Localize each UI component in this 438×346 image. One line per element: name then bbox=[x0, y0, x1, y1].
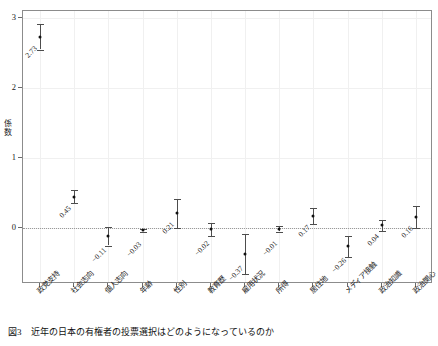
error-bar-cap-upper bbox=[413, 206, 420, 207]
gridline-horizontal bbox=[23, 18, 431, 19]
y-tick-mark bbox=[18, 87, 22, 88]
data-point-value-label: 0.21 bbox=[161, 221, 176, 236]
data-point bbox=[175, 212, 178, 215]
data-point-value-label: 0.04 bbox=[366, 233, 381, 248]
error-bar-cap-upper bbox=[208, 223, 215, 224]
gridline-vertical bbox=[177, 11, 178, 282]
data-point bbox=[209, 228, 212, 231]
y-tick-label: 2 bbox=[12, 82, 16, 92]
data-point-value-label: 0.45 bbox=[58, 204, 73, 219]
error-bar-cap-upper bbox=[37, 24, 44, 25]
gridline-vertical bbox=[74, 11, 75, 282]
zero-line bbox=[23, 228, 431, 229]
caption-number: 図3 bbox=[8, 327, 22, 337]
data-point bbox=[414, 215, 417, 218]
error-bar-cap-lower bbox=[140, 232, 147, 233]
error-bar-cap-lower bbox=[208, 236, 215, 237]
error-bar-cap-lower bbox=[242, 274, 249, 275]
data-point bbox=[39, 35, 42, 38]
gridline-vertical bbox=[382, 11, 383, 282]
error-bar-cap-upper bbox=[379, 220, 386, 221]
gridline-vertical bbox=[313, 11, 314, 282]
error-bar-cap-lower bbox=[71, 203, 78, 204]
data-point-value-label: 0.17 bbox=[297, 224, 312, 239]
error-bar-cap-upper bbox=[71, 190, 78, 191]
y-tick-mark bbox=[18, 17, 22, 18]
figure-container: 係数 2.730.45−0.11−0.030.21−0.02−0.37−0.01… bbox=[0, 0, 438, 346]
data-point bbox=[244, 252, 247, 255]
data-point bbox=[141, 229, 144, 232]
error-bar-cap-lower bbox=[310, 224, 317, 225]
error-bar-cap-lower bbox=[379, 231, 386, 232]
error-bar-cap-upper bbox=[310, 208, 317, 209]
y-axis-title: 係数 bbox=[2, 119, 13, 137]
caption-text: 近年の日本の有権者の投票選択はどのようになっているのか bbox=[31, 327, 274, 337]
data-point-value-label: −0.11 bbox=[91, 246, 109, 264]
data-point-value-label: 0.16 bbox=[400, 224, 415, 239]
y-tick-mark bbox=[18, 157, 22, 158]
gridline-vertical bbox=[279, 11, 280, 282]
error-bar-cap-lower bbox=[276, 232, 283, 233]
error-bar-cap-upper bbox=[105, 227, 112, 228]
plot-area: 2.730.45−0.11−0.030.21−0.02−0.37−0.010.1… bbox=[22, 10, 432, 283]
data-point bbox=[73, 195, 76, 198]
y-tick-label: 3 bbox=[12, 12, 16, 22]
data-point-value-label: −0.26 bbox=[330, 257, 348, 275]
y-tick-label: 0 bbox=[12, 222, 16, 232]
gridline-vertical bbox=[211, 11, 212, 282]
data-point bbox=[312, 215, 315, 218]
error-bar-cap-lower bbox=[174, 228, 181, 229]
error-bar-cap-upper bbox=[174, 199, 181, 200]
error-bar-cap-lower bbox=[105, 246, 112, 247]
error-bar-cap-lower bbox=[345, 257, 352, 258]
y-tick-mark bbox=[18, 227, 22, 228]
data-point-value-label: 2.73 bbox=[24, 45, 39, 60]
data-point bbox=[278, 227, 281, 230]
gridline-vertical bbox=[40, 11, 41, 282]
gridline-horizontal bbox=[23, 88, 431, 89]
error-bar-cap-upper bbox=[345, 236, 352, 237]
gridline-horizontal bbox=[23, 158, 431, 159]
gridline-vertical bbox=[143, 11, 144, 282]
data-point-value-label: −0.03 bbox=[125, 241, 143, 259]
data-point bbox=[380, 224, 383, 227]
data-point bbox=[346, 245, 349, 248]
data-point-value-label: −0.01 bbox=[261, 239, 279, 257]
error-bar-cap-upper bbox=[242, 234, 249, 235]
figure-caption: 図3近年の日本の有権者の投票選択はどのようになっているのか bbox=[8, 326, 274, 338]
y-tick-label: 1 bbox=[12, 152, 16, 162]
gridline-vertical bbox=[416, 11, 417, 282]
data-point-value-label: −0.02 bbox=[193, 240, 211, 258]
data-point bbox=[107, 234, 110, 237]
